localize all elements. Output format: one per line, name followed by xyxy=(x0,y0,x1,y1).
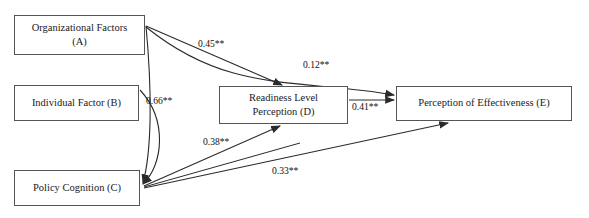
arrow-C-to-D xyxy=(144,126,280,186)
node-box-organizational-factors[interactable]: Organizational Factors (A) xyxy=(14,15,145,55)
node-label-D: Readiness Level Perception (D) xyxy=(246,91,321,119)
arrow-A-to-D xyxy=(146,26,282,85)
edge-label-B-to-C: 0.66** xyxy=(146,95,172,106)
node-label-A: Organizational Factors (A) xyxy=(29,21,131,49)
node-box-readiness-level-perception[interactable]: Readiness Level Perception (D) xyxy=(219,86,348,124)
node-label-C: Policy Cognition (C) xyxy=(30,181,124,195)
edge-label-A-to-D: 0.45** xyxy=(198,38,224,49)
edge-label-C-to-D: 0.38** xyxy=(203,136,229,147)
edge-label-D-to-E: 0.41** xyxy=(352,101,378,112)
node-box-individual-factor[interactable]: Individual Factor (B) xyxy=(14,85,139,121)
arrow-A-to-E xyxy=(146,27,394,95)
edge-label-A-to-E: 0.12** xyxy=(303,59,329,70)
edge-label-C-to-E: 0.33** xyxy=(272,165,298,176)
arrow-C-to-E xyxy=(144,123,448,188)
node-box-perception-of-effectiveness[interactable]: Perception of Effectiveness (E) xyxy=(396,86,572,121)
node-label-B: Individual Factor (B) xyxy=(29,96,124,110)
node-box-policy-cognition[interactable]: Policy Cognition (C) xyxy=(14,170,140,206)
node-label-E: Perception of Effectiveness (E) xyxy=(415,96,552,110)
diagram-canvas: Organizational Factors (A) Individual Fa… xyxy=(0,0,589,218)
